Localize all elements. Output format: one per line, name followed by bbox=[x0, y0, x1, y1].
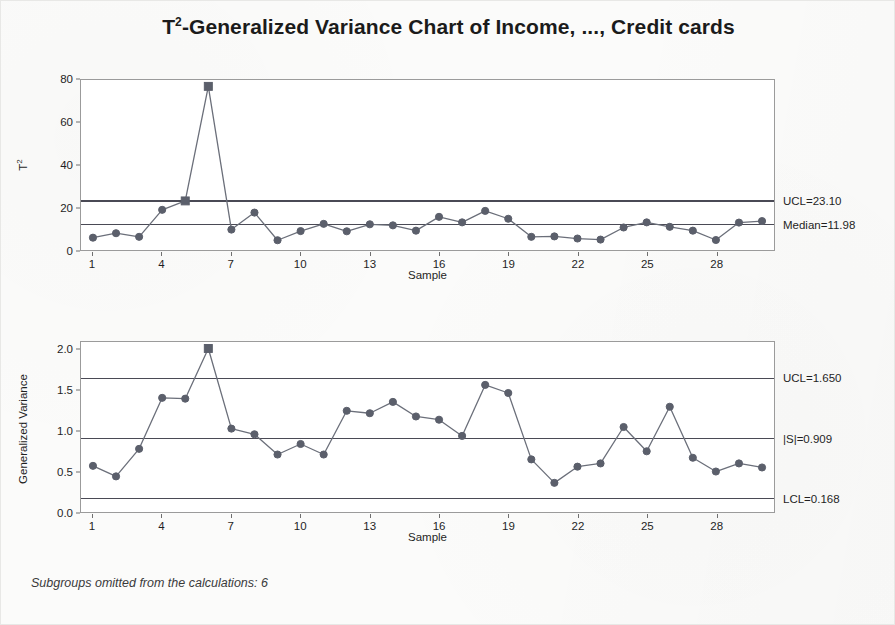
title-prefix: T bbox=[162, 15, 175, 38]
gv-y-tick-label: 0.0 bbox=[13, 507, 73, 519]
gv-x-tick-mark bbox=[717, 514, 718, 518]
gv-y-tick-mark bbox=[76, 472, 80, 473]
gv-plot-canvas bbox=[81, 342, 774, 512]
gv-x-tick-mark bbox=[161, 514, 162, 518]
t2-x-tick-mark bbox=[647, 252, 648, 256]
gv-y-tick-label: 0.5 bbox=[13, 466, 73, 478]
gv-x-tick-mark bbox=[92, 514, 93, 518]
t2-limit-label-ucl: UCL=23.10 bbox=[783, 195, 842, 207]
t2-limit-label-median: Median=11.98 bbox=[783, 219, 855, 231]
t2-y-tick-label: 40 bbox=[13, 159, 73, 171]
t2-x-tick-mark bbox=[717, 252, 718, 256]
t2-x-tick-mark bbox=[578, 252, 579, 256]
t2-y-tick-mark bbox=[76, 251, 80, 252]
t2-y-tick-mark bbox=[76, 165, 80, 166]
gv-y-tick-label: 2.0 bbox=[13, 343, 73, 355]
gv-y-axis-ticks: 0.00.51.01.52.0 bbox=[1, 323, 73, 565]
gv-x-tick-mark bbox=[578, 514, 579, 518]
t2-y-tick-mark bbox=[76, 208, 80, 209]
t2-y-tick-label: 80 bbox=[13, 73, 73, 85]
gv-x-tick-mark bbox=[508, 514, 509, 518]
gv-limit-label-center: |S|=0.909 bbox=[783, 433, 832, 445]
t2-y-tick-mark bbox=[76, 122, 80, 123]
gv-limit-label-lcl: LCL=0.168 bbox=[783, 493, 840, 505]
gv-x-tick-mark bbox=[370, 514, 371, 518]
generalized-variance-chart-panel: Generalized Variance 0.00.51.01.52.0 147… bbox=[1, 323, 895, 565]
gv-x-tick-mark bbox=[231, 514, 232, 518]
t2-x-tick-mark bbox=[231, 252, 232, 256]
t2-y-tick-label: 60 bbox=[13, 116, 73, 128]
gv-y-tick-mark bbox=[76, 431, 80, 432]
gv-x-tick-mark bbox=[300, 514, 301, 518]
gv-y-tick-mark bbox=[76, 513, 80, 514]
t2-x-tick-mark bbox=[161, 252, 162, 256]
t2-x-tick-mark bbox=[508, 252, 509, 256]
footnote-subgroups-omitted: Subgroups omitted from the calculations:… bbox=[31, 576, 268, 590]
chart-page: T2-Generalized Variance Chart of Income,… bbox=[0, 0, 895, 625]
gv-x-tick-mark bbox=[647, 514, 648, 518]
t2-y-tick-label: 0 bbox=[13, 245, 73, 257]
title-superscript: 2 bbox=[175, 15, 182, 29]
gv-y-tick-label: 1.0 bbox=[13, 425, 73, 437]
page-title: T2-Generalized Variance Chart of Income,… bbox=[1, 15, 895, 39]
t2-x-tick-mark bbox=[92, 252, 93, 256]
t2-x-tick-mark bbox=[439, 252, 440, 256]
title-rest: -Generalized Variance Chart of Income, .… bbox=[182, 15, 735, 38]
gv-y-tick-mark bbox=[76, 390, 80, 391]
t2-x-axis-title: Sample bbox=[80, 269, 775, 281]
t2-x-tick-mark bbox=[370, 252, 371, 256]
t2-y-axis-ticks: 020406080 bbox=[1, 63, 73, 303]
gv-y-tick-label: 1.5 bbox=[13, 384, 73, 396]
gv-x-axis-title: Sample bbox=[80, 531, 775, 543]
t2-x-tick-mark bbox=[300, 252, 301, 256]
gv-plot-area bbox=[80, 341, 775, 513]
t2-plot-canvas bbox=[81, 80, 774, 250]
t2-chart-panel: T2 020406080 14710131619222528 Sample UC… bbox=[1, 63, 895, 303]
t2-y-tick-label: 20 bbox=[13, 202, 73, 214]
gv-y-tick-mark bbox=[76, 349, 80, 350]
gv-x-tick-mark bbox=[439, 514, 440, 518]
t2-y-tick-mark bbox=[76, 79, 80, 80]
gv-limit-label-ucl: UCL=1.650 bbox=[783, 372, 842, 384]
t2-plot-area bbox=[80, 79, 775, 251]
